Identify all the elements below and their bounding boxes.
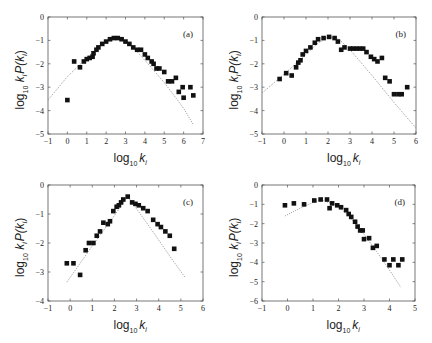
chart-panel-d: −10123450−1−2−3−4−5−6(d)log10kilog10 kiP… [216,171,432,343]
data-point [284,71,289,76]
y-tick-label: −3 [35,83,44,92]
data-point [292,201,297,206]
data-point [396,263,401,268]
data-point [342,45,347,50]
chart-panel-b: −101234560−1−2−3−4−5(b)log10kilog10 kiP(… [216,0,432,171]
data-point [78,65,83,70]
data-point [405,85,410,90]
x-axis-label: log10ki [327,318,361,334]
x-tick-label: 4 [143,137,147,146]
data-point [188,85,193,90]
x-tick-label: 2 [112,304,116,313]
x-tick-label: 2 [326,137,330,146]
y-tick-label: 0 [40,13,44,22]
data-point [289,73,294,78]
y-tick-label: −5 [35,130,44,139]
plot-frame [262,17,416,134]
chart-panel-a: −1012345670−1−2−3−4−5(a)log10kilog10 kiP… [0,0,216,171]
y-tick-label: −1 [249,36,258,45]
y-tick-label: −1 [35,36,44,45]
data-point [364,50,369,55]
x-tick-label: 1 [304,137,308,146]
data-point [302,202,307,207]
data-point [353,219,358,224]
x-axis-label: log10ki [327,151,361,167]
data-point [159,225,164,230]
y-tick-label: 0 [254,181,258,190]
data-point [349,215,354,220]
y-tick-label: −3 [35,268,44,277]
data-point [65,98,70,103]
data-point [83,248,88,253]
data-point [399,92,404,97]
y-tick-label: −2 [249,60,258,69]
y-tick-label: 0 [254,13,258,22]
x-tick-label: 4 [157,304,161,313]
data-point [121,197,126,202]
data-point [327,206,332,211]
x-tick-label: 4 [388,304,392,313]
y-tick-label: −6 [249,297,258,306]
data-point [78,273,83,278]
y-tick-label: −2 [249,220,258,229]
x-axis-label: log10ki [114,151,148,167]
data-point [136,203,141,208]
data-point [330,201,335,206]
data-point [71,261,76,266]
data-point [174,76,179,81]
data-point [374,244,379,249]
data-point [176,90,181,95]
data-point [91,241,96,246]
x-tick-label: 5 [179,304,183,313]
data-point [151,62,156,67]
data-point [98,229,103,234]
x-tick-label: 1 [90,304,94,313]
data-point [151,218,156,223]
x-tick-label: 1 [85,137,89,146]
x-tick-label: 4 [370,137,374,146]
data-point [362,237,367,242]
chart-a-svg: −1012345670−1−2−3−4−5(a)log10kilog10 kiP… [0,0,216,171]
data-point [167,233,172,238]
data-point [380,56,385,61]
x-tick-label: 3 [348,137,352,146]
data-point [391,257,396,262]
data-point [163,229,168,234]
data-point [111,209,116,214]
x-tick-label: 2 [104,137,108,146]
data-point [312,198,317,203]
x-tick-label: 0 [286,304,290,313]
data-point [139,47,144,52]
y-tick-label: −1 [249,200,258,209]
y-tick-label: −5 [249,130,258,139]
y-tick-label: −3 [249,83,258,92]
y-tick-label: −1 [35,210,44,219]
y-tick-label: −4 [249,107,258,116]
panel-label: (d) [395,197,406,207]
plot-frame [262,185,415,301]
data-point [65,261,70,266]
y-tick-label: −2 [35,60,44,69]
x-tick-label: −1 [44,137,53,146]
data-point [191,93,196,98]
data-point [298,58,303,63]
plot-frame [48,185,203,301]
data-point [336,39,341,44]
x-tick-label: −1 [258,137,267,146]
chart-panel-c: −101234560−1−2−3−4(c)log10kilog10 kiP(ki… [0,171,216,343]
data-point [339,205,344,210]
x-tick-label: 6 [201,304,205,313]
data-point [375,59,380,64]
x-axis-label: log10ki [114,318,148,334]
data-point [400,257,405,262]
panel-label: (c) [183,197,193,207]
data-point [316,37,321,42]
data-point [283,203,288,208]
x-tick-label: 2 [337,304,341,313]
data-point [387,79,392,84]
chart-b-svg: −101234560−1−2−3−4−5(b)log10kilog10 kiP(… [216,0,432,171]
x-tick-label: 0 [68,304,72,313]
data-point [387,263,392,268]
data-point [294,65,299,70]
panel-label: (a) [183,29,193,39]
